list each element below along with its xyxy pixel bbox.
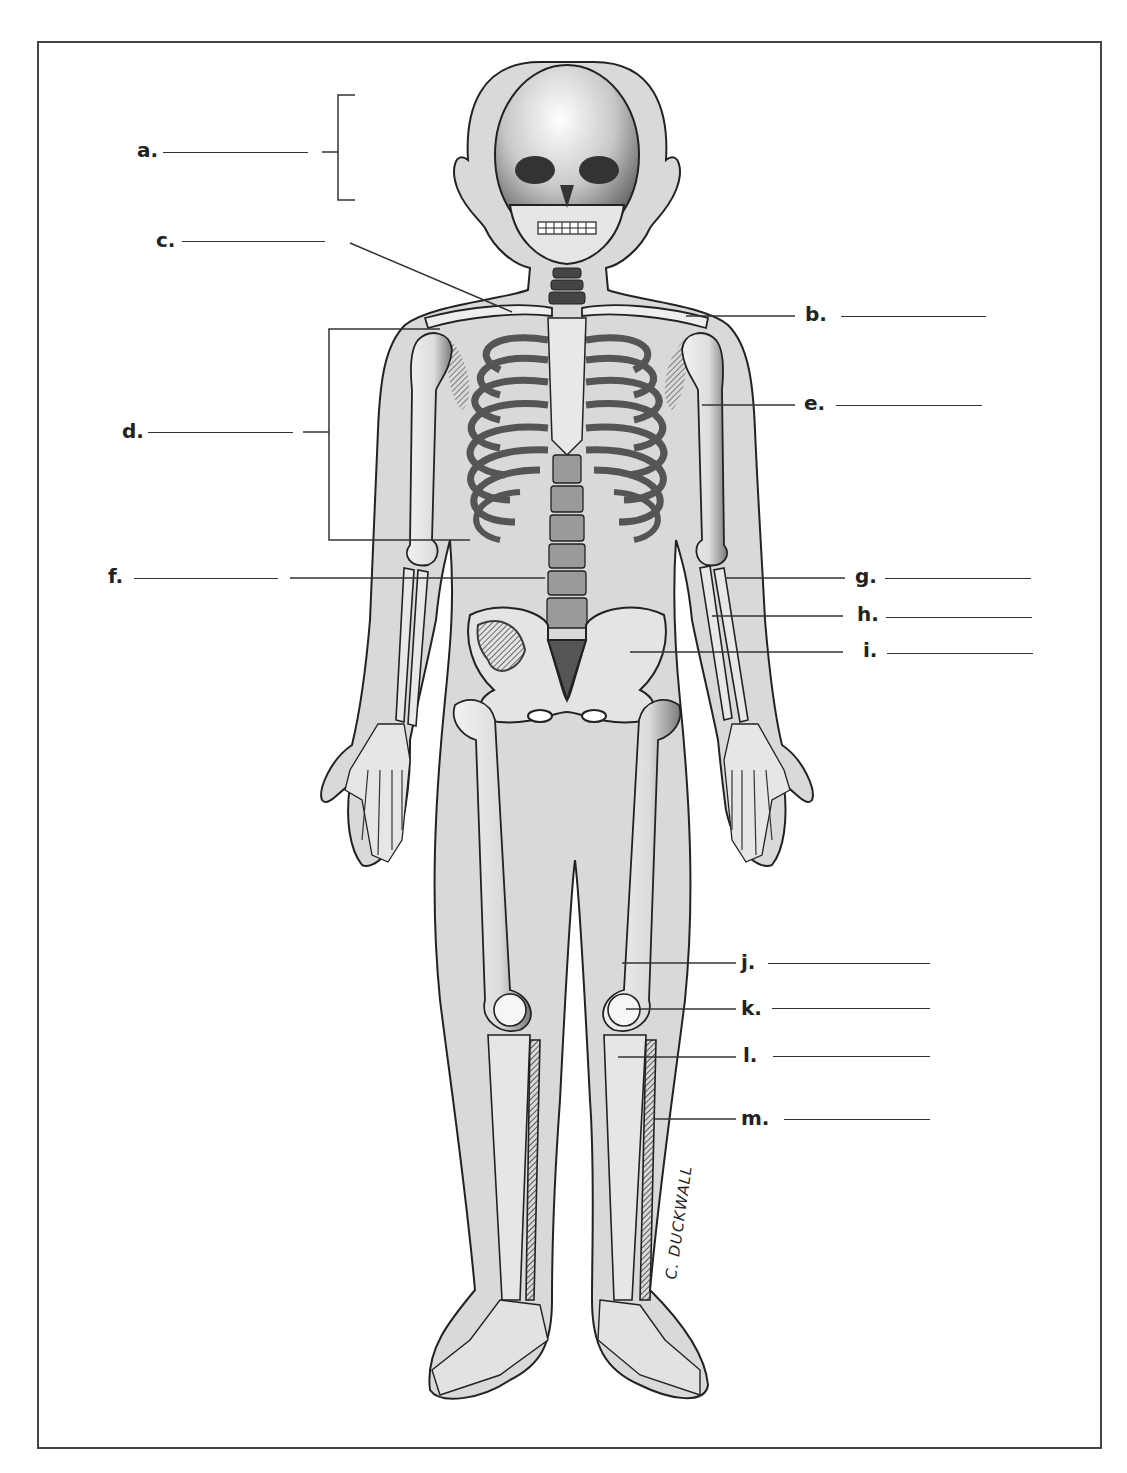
cervical-spine xyxy=(549,268,585,304)
lower-leg-bones xyxy=(488,1035,656,1300)
answer-blank-f[interactable] xyxy=(134,578,278,579)
answer-blank-d[interactable] xyxy=(148,432,293,433)
label-l: l. xyxy=(743,1045,757,1065)
label-c: c. xyxy=(156,230,175,250)
patellae xyxy=(494,994,640,1026)
label-b: b. xyxy=(805,304,827,324)
answer-blank-c[interactable] xyxy=(182,241,325,242)
skeleton-figure xyxy=(0,0,1127,1473)
label-k: k. xyxy=(741,998,762,1018)
answer-blank-l[interactable] xyxy=(773,1056,930,1057)
label-i: i. xyxy=(863,640,877,660)
lumbar-spine xyxy=(547,455,587,628)
sternum xyxy=(548,318,586,455)
answer-blank-e[interactable] xyxy=(836,405,982,406)
answer-blank-h[interactable] xyxy=(886,617,1032,618)
label-f: f. xyxy=(108,566,123,586)
answer-blank-j[interactable] xyxy=(768,963,930,964)
answer-blank-i[interactable] xyxy=(887,653,1033,654)
answer-blank-b[interactable] xyxy=(841,316,986,317)
label-a: a. xyxy=(137,140,158,160)
label-g: g. xyxy=(855,566,877,586)
label-m: m. xyxy=(741,1108,769,1128)
answer-blank-m[interactable] xyxy=(784,1119,930,1120)
answer-blank-a[interactable] xyxy=(163,152,308,153)
label-h: h. xyxy=(857,604,879,624)
label-d: d. xyxy=(122,421,144,441)
answer-blank-k[interactable] xyxy=(772,1008,930,1009)
answer-blank-g[interactable] xyxy=(885,578,1031,579)
label-e: e. xyxy=(804,393,825,413)
label-j: j. xyxy=(741,952,755,972)
